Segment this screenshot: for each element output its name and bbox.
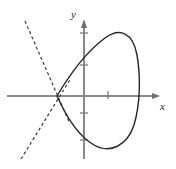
tangent-line-lower xyxy=(21,78,71,159)
y-axis-label: y xyxy=(71,9,76,20)
figure-container: y x xyxy=(0,0,176,169)
y-axis-arrowhead xyxy=(81,19,87,28)
curve-loop xyxy=(57,33,139,149)
x-axis-arrowhead xyxy=(152,93,160,99)
plot-canvas xyxy=(0,0,176,169)
x-axis-label: x xyxy=(160,101,165,112)
data-group xyxy=(21,21,139,159)
